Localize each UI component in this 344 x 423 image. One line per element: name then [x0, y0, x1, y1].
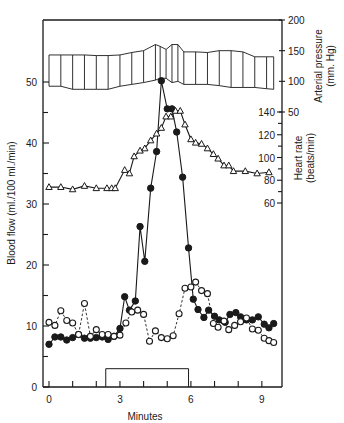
x-tick-label: 6 — [188, 394, 194, 405]
open-circle-marker — [111, 333, 117, 339]
pressure-axis-title-line1: Arterial pressure — [313, 29, 324, 103]
open-circle-marker — [129, 309, 135, 315]
open-circle-marker — [99, 332, 105, 338]
filled-circle-marker — [255, 314, 261, 320]
heart-rate-axis-title-line1: Heart rate — [293, 135, 304, 180]
pressure-tick-label: 200 — [288, 15, 305, 26]
open-circle-marker — [58, 308, 64, 314]
left-tick-label: 40 — [26, 138, 38, 149]
open-circle-marker — [243, 315, 249, 321]
heart-rate-tick-label: 80 — [264, 175, 276, 186]
stimulus-bar — [106, 369, 189, 387]
open-circle-marker — [135, 307, 141, 313]
filled-circle-marker — [46, 341, 52, 347]
filled-circle-marker — [142, 258, 148, 264]
filled-circle-marker — [185, 245, 191, 251]
filled-circle-marker — [153, 148, 159, 154]
open-circle-marker — [238, 319, 244, 325]
filled-circle-marker — [270, 320, 276, 326]
open-circle-marker — [232, 322, 238, 328]
open-circle-marker — [147, 338, 153, 344]
pressure-tick-label: 50 — [288, 107, 300, 118]
filled-circle-marker — [137, 223, 143, 229]
open-circle-marker — [255, 327, 261, 333]
x-tick-label: 9 — [259, 394, 265, 405]
filled-circle-marker — [93, 334, 99, 340]
open-circle-marker — [93, 327, 99, 333]
blood-flow-chart: 0369Minutes01020304050Blood flow (ml./10… — [0, 0, 344, 423]
open-circle-marker — [204, 291, 210, 297]
open-circle-marker — [46, 319, 52, 325]
open-triangle-marker — [204, 145, 210, 151]
left-tick-label: 50 — [26, 77, 38, 88]
open-circle-marker — [123, 320, 129, 326]
open-triangle-marker — [188, 136, 194, 142]
filled-circle-marker — [249, 317, 255, 323]
open-circle-marker — [158, 335, 164, 341]
open-triangle-marker — [158, 125, 164, 131]
open-circle-marker — [188, 284, 194, 290]
open-circle-marker — [152, 328, 158, 334]
heart-rate-tick-label: 60 — [264, 198, 276, 209]
heart-rate-tick-label: 100 — [258, 153, 275, 164]
open-circle-marker — [117, 332, 123, 338]
heart-rate-tick-label: 120 — [258, 130, 275, 141]
filled-circle-marker — [69, 334, 75, 340]
open-circle-marker — [141, 311, 147, 317]
filled-circle-marker — [58, 334, 64, 340]
filled-circle-marker — [195, 306, 201, 312]
left-tick-label: 20 — [26, 260, 38, 271]
open-circle-marker — [226, 327, 232, 333]
left-tick-label: 0 — [31, 382, 37, 393]
filled-circle-marker — [201, 314, 207, 320]
open-circle-marker — [76, 332, 82, 338]
open-circle-marker — [271, 339, 277, 345]
filled-circle-marker — [174, 129, 180, 135]
x-axis-title: Minutes — [127, 411, 162, 422]
left-tick-label: 10 — [26, 321, 38, 332]
open-circle-marker — [64, 318, 70, 324]
open-circle-marker — [70, 320, 76, 326]
x-tick-label: 0 — [46, 394, 52, 405]
pressure-tick-label: 100 — [288, 76, 305, 87]
filled-circle-marker — [132, 298, 138, 304]
open-circle-marker — [182, 285, 188, 291]
open-circle-marker — [105, 332, 111, 338]
left-axis-title: Blood flow (ml./100 ml./min) — [6, 141, 17, 264]
open-triangle-marker — [266, 169, 272, 175]
open-triangle-marker — [81, 183, 87, 189]
filled-circle-marker — [147, 185, 153, 191]
open-circle-marker — [164, 336, 170, 342]
heart-rate-axis-title-line2: (beats/min) — [305, 133, 316, 183]
heart-rate-tick-label: 140 — [258, 107, 275, 118]
open-circle-marker — [199, 288, 205, 294]
chart-canvas: 0369Minutes01020304050Blood flow (ml./10… — [0, 0, 344, 423]
open-circle-marker — [221, 318, 227, 324]
pressure-axis-title-line2: (mm. Hg) — [325, 45, 336, 87]
left-tick-label: 30 — [26, 199, 38, 210]
x-tick-label: 3 — [117, 394, 123, 405]
open-circle-series-line — [49, 282, 274, 342]
open-circle-marker — [87, 333, 93, 339]
filled-circle-marker — [190, 296, 196, 302]
open-circle-marker — [52, 322, 58, 328]
open-triangle-marker — [121, 167, 127, 173]
open-triangle-marker — [182, 121, 188, 127]
open-circle-marker — [176, 311, 182, 317]
open-circle-marker — [193, 279, 199, 285]
filled-circle-marker — [121, 294, 127, 300]
filled-circle-marker — [179, 174, 185, 180]
open-circle-marker — [215, 324, 221, 330]
pressure-systolic-line — [49, 45, 274, 57]
open-circle-marker — [170, 333, 176, 339]
open-circle-marker — [81, 300, 87, 306]
pressure-tick-label: 150 — [288, 46, 305, 57]
open-circle-marker — [249, 326, 255, 332]
